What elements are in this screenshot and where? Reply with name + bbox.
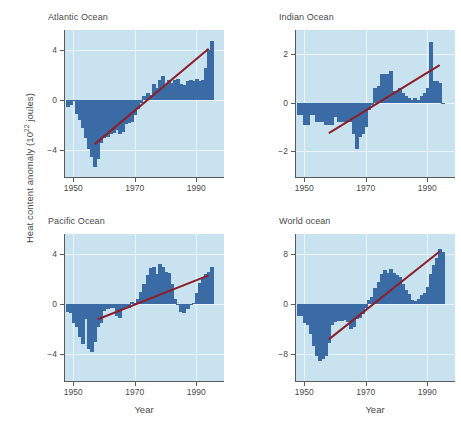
y-axis-tick-label: 0 bbox=[31, 300, 57, 309]
y-axis-tick bbox=[291, 354, 295, 355]
y-axis-tick bbox=[291, 54, 295, 55]
plot-area: −404195019701990 bbox=[64, 234, 224, 382]
plot-area: −404195019701990 bbox=[64, 30, 224, 178]
x-axis-tick-label: 1970 bbox=[115, 184, 155, 193]
panel-indian-ocean: Indian Ocean−202195019701990 bbox=[265, 12, 461, 200]
x-axis-line bbox=[295, 381, 455, 382]
x-axis-tick-label: 1990 bbox=[176, 388, 216, 397]
panel-atlantic-ocean: Atlantic Ocean−404195019701990 bbox=[34, 12, 232, 200]
panel-pacific-ocean: Pacific Ocean−404195019701990 bbox=[34, 216, 232, 404]
x-axis-tick bbox=[366, 178, 367, 182]
y-axis-label-exponent: 22 bbox=[23, 124, 30, 131]
trend-line bbox=[295, 234, 455, 382]
x-axis-tick-label: 1990 bbox=[407, 184, 447, 193]
x-axis-tick bbox=[73, 382, 74, 386]
x-axis-tick bbox=[427, 382, 428, 386]
panel-title: Pacific Ocean bbox=[48, 216, 105, 226]
y-axis-tick bbox=[60, 150, 64, 151]
trend-line bbox=[64, 234, 224, 382]
x-axis-tick-label: 1950 bbox=[284, 184, 324, 193]
y-axis-tick bbox=[60, 354, 64, 355]
x-axis-tick bbox=[366, 382, 367, 386]
y-axis-line bbox=[64, 30, 65, 178]
y-axis-tick bbox=[291, 151, 295, 152]
x-axis-line bbox=[295, 177, 455, 178]
x-axis-line bbox=[64, 381, 224, 382]
x-axis-label-left: Year bbox=[84, 404, 204, 415]
y-axis-tick-label: 0 bbox=[262, 300, 288, 309]
x-axis-tick bbox=[135, 382, 136, 386]
y-axis-tick bbox=[291, 103, 295, 104]
panel-title: World ocean bbox=[279, 216, 330, 226]
x-axis-line bbox=[64, 177, 224, 178]
y-axis-tick-label: 4 bbox=[31, 250, 57, 259]
panel-world-ocean: World ocean−808195019701990 bbox=[265, 216, 461, 404]
y-axis-line bbox=[295, 30, 296, 178]
y-axis-tick bbox=[60, 254, 64, 255]
x-axis-tick-label: 1990 bbox=[407, 388, 447, 397]
y-axis-tick bbox=[60, 100, 64, 101]
y-axis-tick bbox=[60, 50, 64, 51]
y-axis-tick-label: −4 bbox=[31, 146, 57, 155]
y-axis-tick-label: −8 bbox=[262, 350, 288, 359]
x-axis-tick bbox=[304, 382, 305, 386]
y-axis-tick-label: 0 bbox=[262, 99, 288, 108]
x-axis-tick-label: 1970 bbox=[115, 388, 155, 397]
x-axis-tick-label: 1950 bbox=[53, 184, 93, 193]
trend-line bbox=[295, 30, 455, 178]
y-axis-tick-label: 4 bbox=[31, 46, 57, 55]
trend-line bbox=[64, 30, 224, 178]
y-axis-tick bbox=[291, 254, 295, 255]
x-axis-tick-label: 1990 bbox=[176, 184, 216, 193]
ocean-heat-content-figure: Heat content anomaly (1022 joules) Atlan… bbox=[0, 0, 461, 424]
y-axis-line bbox=[295, 234, 296, 382]
y-axis-tick-label: −2 bbox=[262, 147, 288, 156]
x-axis-tick-label: 1950 bbox=[284, 388, 324, 397]
plot-area: −808195019701990 bbox=[295, 234, 455, 382]
y-axis-tick-label: 2 bbox=[262, 50, 288, 59]
panel-title: Atlantic Ocean bbox=[48, 12, 108, 22]
x-axis-tick bbox=[427, 178, 428, 182]
x-axis-tick bbox=[73, 178, 74, 182]
x-axis-tick bbox=[196, 178, 197, 182]
x-axis-tick-label: 1950 bbox=[53, 388, 93, 397]
plot-area: −202195019701990 bbox=[295, 30, 455, 178]
x-axis-tick-label: 1970 bbox=[346, 388, 386, 397]
panel-title: Indian Ocean bbox=[279, 12, 334, 22]
x-axis-tick bbox=[304, 178, 305, 182]
y-axis-line bbox=[64, 234, 65, 382]
y-axis-tick-label: 8 bbox=[262, 250, 288, 259]
x-axis-tick-label: 1970 bbox=[346, 184, 386, 193]
y-axis-tick bbox=[291, 304, 295, 305]
x-axis-tick bbox=[196, 382, 197, 386]
y-axis-tick-label: −4 bbox=[31, 350, 57, 359]
y-axis-tick-label: 0 bbox=[31, 96, 57, 105]
x-axis-tick bbox=[135, 178, 136, 182]
x-axis-label-right: Year bbox=[315, 404, 435, 415]
y-axis-tick bbox=[60, 304, 64, 305]
